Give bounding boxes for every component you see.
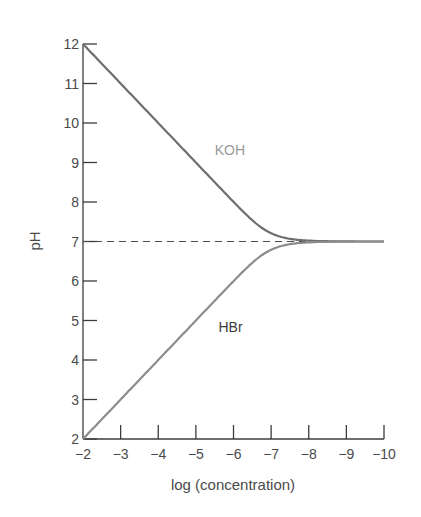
y-tick-label: 3 <box>71 392 79 408</box>
y-tick-label: 4 <box>71 352 79 368</box>
x-tick-label: −10 <box>372 446 396 462</box>
x-axis-title: log (concentration) <box>171 476 295 493</box>
series-label-koh: KOH <box>215 142 245 158</box>
y-tick-label: 9 <box>71 155 79 171</box>
x-tick-label: −9 <box>338 446 354 462</box>
x-tick-label: −4 <box>150 446 166 462</box>
y-tick-label: 10 <box>63 115 79 131</box>
series-labels: KOHHBr <box>215 142 245 336</box>
x-tick-label: −5 <box>188 446 204 462</box>
x-tick-label: −8 <box>301 446 317 462</box>
y-tick-label: 11 <box>64 76 79 92</box>
series-label-hbr: HBr <box>218 319 242 335</box>
y-tick-label: 2 <box>71 431 79 447</box>
x-tick-label: −3 <box>113 446 129 462</box>
x-tick-label: −6 <box>226 446 242 462</box>
ph-vs-concentration-chart: 23456789101112−2−3−4−5−6−7−8−9−10 KOHHBr… <box>0 0 421 517</box>
y-tick-label: 12 <box>63 36 79 52</box>
x-tick-label: −7 <box>263 446 279 462</box>
series-line-hbr <box>83 242 384 440</box>
y-axis-title: pH <box>26 231 43 250</box>
y-tick-label: 5 <box>71 313 79 329</box>
y-tick-label: 7 <box>71 234 79 250</box>
x-tick-label: −2 <box>75 446 91 462</box>
axes: 23456789101112−2−3−4−5−6−7−8−9−10 <box>63 36 396 462</box>
y-tick-label: 8 <box>71 194 79 210</box>
y-tick-label: 6 <box>71 273 79 289</box>
